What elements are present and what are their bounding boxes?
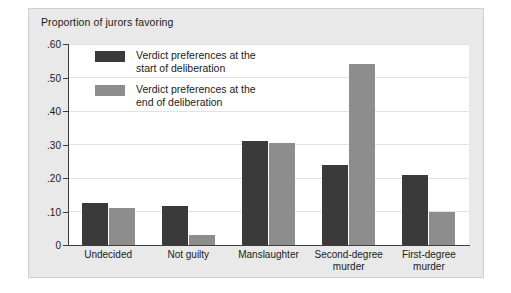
legend-item: Verdict preferences at the start of deli…: [95, 49, 256, 74]
figure-frame: Proportion of jurors favoring 0.10.20.30…: [28, 8, 484, 278]
x-axis-line: [68, 245, 470, 246]
bar: [109, 208, 135, 245]
bar: [82, 203, 108, 245]
legend-label: Verdict preferences at the start of deli…: [136, 49, 256, 74]
x-axis-category-label: Second-degreemurder: [303, 249, 395, 272]
legend-swatch: [95, 51, 125, 62]
y-tick-mark: [63, 212, 68, 213]
y-tick-label: .20: [47, 173, 61, 184]
x-label-line: Second-degree: [314, 249, 382, 260]
y-tick-mark: [63, 245, 68, 246]
y-tick-label: .50: [47, 72, 61, 83]
bar: [322, 165, 348, 245]
y-tick-label: .60: [47, 39, 61, 50]
legend-label: Verdict preferences at the end of delibe…: [136, 83, 256, 108]
x-axis-category-label: First-degreemurder: [383, 249, 475, 272]
bar: [269, 143, 295, 245]
bar: [349, 64, 375, 245]
x-label-line: Manslaughter: [238, 249, 299, 260]
y-tick-label: 0: [55, 240, 61, 251]
y-tick-label: .40: [47, 106, 61, 117]
bar: [429, 212, 455, 246]
y-tick-label: .10: [47, 206, 61, 217]
y-tick-mark: [63, 111, 68, 112]
y-tick-mark: [63, 78, 68, 79]
y-tick-mark: [63, 44, 68, 45]
x-label-line: Not guilty: [167, 249, 209, 260]
chart-legend: Verdict preferences at the start of deli…: [95, 49, 256, 117]
y-axis-line: [68, 44, 69, 246]
x-label-line: murder: [333, 261, 365, 272]
y-tick-label: .30: [47, 139, 61, 150]
x-label-line: murder: [413, 261, 445, 272]
y-tick-mark: [63, 145, 68, 146]
gridline: [68, 44, 469, 45]
bar: [162, 206, 188, 245]
chart-title: Proportion of jurors favoring: [41, 16, 173, 28]
x-label-line: Undecided: [84, 249, 132, 260]
x-axis-category-label: Manslaughter: [222, 249, 314, 261]
x-axis-category-label: Not guilty: [142, 249, 234, 261]
legend-swatch: [95, 85, 125, 96]
x-label-line: First-degree: [402, 249, 456, 260]
bar: [402, 175, 428, 245]
y-tick-mark: [63, 178, 68, 179]
bar: [189, 235, 215, 245]
bar: [242, 141, 268, 245]
legend-item: Verdict preferences at the end of delibe…: [95, 83, 256, 108]
x-axis-category-label: Undecided: [62, 249, 154, 261]
